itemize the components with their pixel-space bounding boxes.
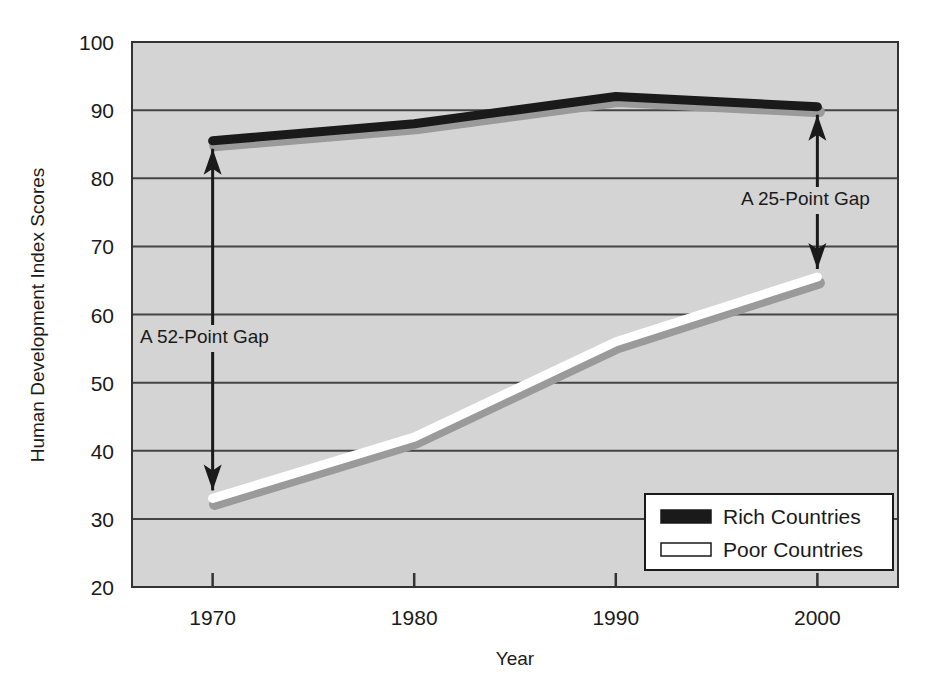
legend-label-rich-countries: Rich Countries — [723, 505, 861, 528]
chart-container: 2030405060708090100 1970198019902000 A 5… — [0, 0, 940, 688]
y-axis-tick-label: 20 — [91, 576, 114, 599]
chart-legend[interactable]: Rich Countries Poor Countries — [645, 494, 893, 570]
y-axis-tick-label: 30 — [91, 508, 114, 531]
y-axis-tick-label: 70 — [91, 235, 114, 258]
y-axis-tick-label: 90 — [91, 99, 114, 122]
y-axis-tick-label: 80 — [91, 167, 114, 190]
legend-swatch-rich-icon — [661, 510, 711, 523]
gap-annotation-left-label: A 52-Point Gap — [140, 326, 269, 347]
y-axis-tick-label: 50 — [91, 372, 114, 395]
x-axis-tick-label: 1980 — [391, 606, 438, 629]
x-axis-title: Year — [496, 648, 535, 669]
x-axis-tick-label: 2000 — [794, 606, 841, 629]
y-axis-tick-label: 40 — [91, 440, 114, 463]
x-axis-tick-label: 1990 — [592, 606, 639, 629]
legend-label-poor-countries: Poor Countries — [723, 538, 863, 561]
x-axis-tick-label: 1970 — [189, 606, 236, 629]
y-axis-tick-labels: 2030405060708090100 — [79, 31, 114, 599]
y-axis-tick-label: 60 — [91, 304, 114, 327]
gap-annotation-right-label: A 25-Point Gap — [741, 188, 870, 209]
hdi-line-chart: 2030405060708090100 1970198019902000 A 5… — [0, 0, 940, 688]
x-axis-tick-labels: 1970198019902000 — [189, 606, 840, 629]
y-axis-title: Human Development Index Scores — [27, 168, 48, 463]
legend-swatch-poor-icon — [661, 543, 711, 556]
y-axis-tick-label: 100 — [79, 31, 114, 54]
